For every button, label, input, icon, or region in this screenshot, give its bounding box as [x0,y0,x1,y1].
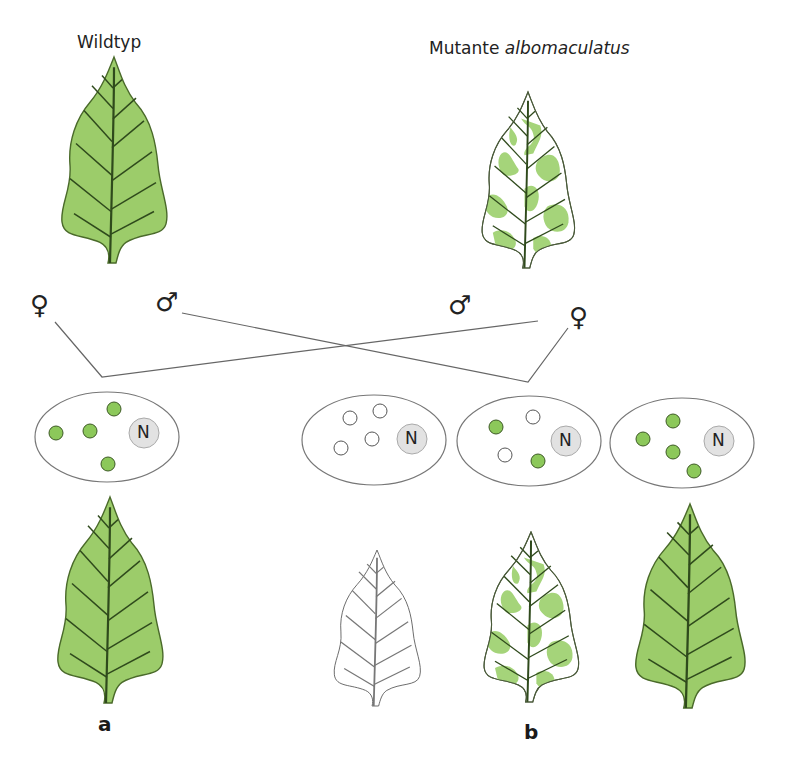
male-symbol-right: ♂ [448,290,471,320]
female-symbol-right: ♀ [569,302,588,332]
plastid-green [107,402,121,416]
cell-b2 [457,396,601,486]
leaf-parent-mutant [482,92,575,268]
cross-lines [55,313,568,382]
cell-b3 [610,398,754,488]
female-symbol-left: ♀ [30,290,49,320]
cell-a [35,392,179,482]
male-symbol-left: ♂ [155,287,178,317]
nucleus-label-a: N [137,422,150,442]
leaf-offspring-a [58,497,163,703]
crossing-diagram [0,0,788,765]
nucleus-label-b2: N [559,430,572,450]
leaf-offspring-b-white [334,550,420,706]
plastid-green [83,424,97,438]
nucleus-label-b1: N [405,428,418,448]
leaf-offspring-b-variegated [484,532,579,702]
panel-label-a: a [98,712,112,736]
plastid-green [49,426,63,440]
panel-label-b: b [524,720,538,744]
leaf-parent-wildtype [62,57,167,263]
plastid-green [101,457,115,471]
leaf-offspring-b-green [636,504,745,708]
nucleus-label-b3: N [712,430,725,450]
cell-b1 [302,395,446,485]
